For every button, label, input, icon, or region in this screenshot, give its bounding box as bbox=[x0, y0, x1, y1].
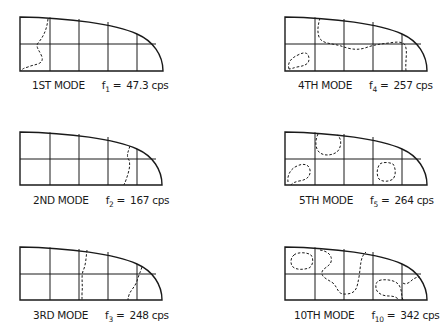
mode-panel-3 bbox=[20, 247, 162, 300]
mode-label-2: 2ND MODE f2= 167 cps bbox=[33, 194, 169, 209]
nodal-line bbox=[124, 146, 130, 185]
nodal-line bbox=[288, 164, 310, 185]
mode-panel-10 bbox=[285, 247, 427, 300]
mode-label-10: 10TH MODE f10= 342 cps bbox=[294, 309, 440, 324]
mode-label-3: 3RD MODE f3= 248 cps bbox=[33, 309, 169, 324]
nodal-line bbox=[21, 19, 48, 71]
nodal-line bbox=[291, 253, 313, 270]
nodal-line bbox=[288, 53, 309, 69]
mode-label-4: 4TH MODE f4= 257 cps bbox=[298, 79, 433, 94]
mode-panel-5 bbox=[285, 132, 427, 185]
nodal-line bbox=[376, 280, 403, 300]
mode-panel-1 bbox=[20, 17, 163, 71]
nodal-line bbox=[316, 134, 341, 155]
nodal-line bbox=[82, 250, 87, 300]
mode-shapes-diagram: 1ST MODE f1= 47.3 cps 2ND MODE f2= 167 c… bbox=[0, 0, 444, 335]
mode-label-5: 5TH MODE f5= 264 cps bbox=[299, 194, 434, 209]
mode-panel-4 bbox=[285, 17, 427, 71]
nodal-line bbox=[320, 250, 366, 294]
nodal-line bbox=[403, 277, 420, 284]
mode-label-1: 1ST MODE f1= 47.3 cps bbox=[32, 79, 168, 94]
mode-panel-2 bbox=[20, 132, 162, 185]
nodal-line bbox=[128, 267, 142, 300]
nodal-line bbox=[377, 163, 395, 182]
